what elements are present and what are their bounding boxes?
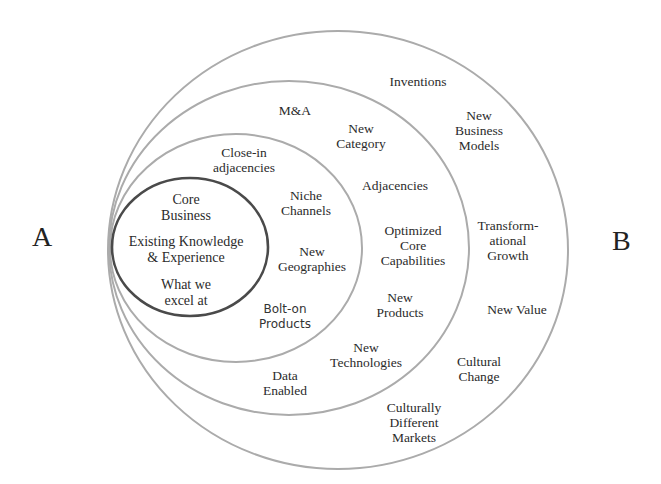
- label-data-enabled: Data Enabled: [263, 368, 307, 398]
- label-culturally-different-markets: Culturally Different Markets: [387, 400, 442, 445]
- label-line: Technologies: [330, 355, 402, 370]
- label-line: New: [278, 244, 346, 259]
- label-optimized-core-capabilities: Optimized Core Capabilities: [381, 223, 446, 268]
- label-new-geographies: New Geographies: [278, 244, 346, 274]
- label-line: Change: [457, 369, 501, 384]
- label-line: Products: [259, 317, 311, 332]
- label-line: New Value: [487, 302, 546, 317]
- label-line: Data: [263, 368, 307, 383]
- label-cultural-change: Cultural Change: [457, 354, 501, 384]
- label-new-category: New Category: [336, 121, 386, 151]
- label-line: Niche: [281, 188, 331, 203]
- label-core-business: Core Business: [161, 192, 211, 223]
- label-new-value: New Value: [487, 302, 546, 317]
- label-line: Business: [455, 123, 503, 138]
- label-what-we-excel-at: What we excel at: [161, 277, 211, 308]
- label-line: Optimized: [381, 223, 446, 238]
- label-line: Existing Knowledge: [129, 234, 244, 250]
- label-line: New: [376, 290, 423, 305]
- innovation-ambition-diagram: A B Core Business Existing Knowledge & E…: [0, 0, 661, 484]
- label-line: Culturally: [387, 400, 442, 415]
- label-line: Capabilities: [381, 253, 446, 268]
- label-line: Core: [381, 238, 446, 253]
- label-bolt-on-products: Bolt-on Products: [259, 302, 311, 332]
- label-line: Models: [455, 138, 503, 153]
- label-line: Bolt-on: [259, 302, 311, 317]
- label-line: Channels: [281, 203, 331, 218]
- label-line: Core: [161, 192, 211, 208]
- label-line: M&A: [279, 103, 311, 118]
- label-transformational-growth: Transform- ational Growth: [477, 218, 538, 263]
- endpoint-b-label: B: [612, 227, 631, 255]
- label-line: Growth: [477, 248, 538, 263]
- label-line: New: [330, 340, 402, 355]
- label-line: Cultural: [457, 354, 501, 369]
- label-line: & Experience: [129, 250, 244, 266]
- label-line: What we: [161, 277, 211, 293]
- label-line: adjacencies: [213, 160, 275, 175]
- label-line: Products: [376, 305, 423, 320]
- endpoint-a-label: A: [32, 223, 52, 251]
- concentric-circles: [0, 0, 661, 484]
- label-line: Category: [336, 136, 386, 151]
- label-line: Different: [387, 415, 442, 430]
- label-adjacencies: Adjacencies: [362, 178, 428, 193]
- label-new-products: New Products: [376, 290, 423, 320]
- label-line: excel at: [161, 293, 211, 309]
- label-line: Enabled: [263, 383, 307, 398]
- label-line: Transform-: [477, 218, 538, 233]
- label-line: Markets: [387, 430, 442, 445]
- label-inventions: Inventions: [390, 74, 447, 89]
- label-new-business-models: New Business Models: [455, 108, 503, 153]
- label-new-technologies: New Technologies: [330, 340, 402, 370]
- label-line: Inventions: [390, 74, 447, 89]
- label-niche-channels: Niche Channels: [281, 188, 331, 218]
- label-close-in-adjacencies: Close-in adjacencies: [213, 145, 275, 175]
- label-line: Close-in: [213, 145, 275, 160]
- label-line: Geographies: [278, 259, 346, 274]
- label-line: Adjacencies: [362, 178, 428, 193]
- label-existing-knowledge: Existing Knowledge & Experience: [129, 234, 244, 265]
- label-m-and-a: M&A: [279, 103, 311, 118]
- label-line: ational: [477, 233, 538, 248]
- label-line: Business: [161, 208, 211, 224]
- label-line: New: [336, 121, 386, 136]
- label-line: New: [455, 108, 503, 123]
